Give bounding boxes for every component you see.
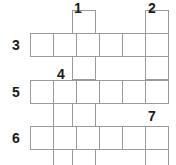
cell-r5-c2[interactable] [76,126,100,150]
clue-number-5: 5 [12,85,20,99]
cell-r5-c1[interactable] [53,126,77,150]
cell-r3-c0[interactable] [30,80,54,104]
cell-r1-c1[interactable] [53,33,77,57]
cell-r2-c2[interactable] [72,56,96,80]
cell-r1-c4[interactable] [122,33,146,57]
clue-number-3: 3 [12,38,20,52]
clue-number-1: 1 [74,1,82,15]
cell-r3-c2[interactable] [76,80,100,104]
cell-r3-c3[interactable] [99,80,123,104]
clue-number-7: 7 [148,109,156,123]
cell-r5-c0[interactable] [30,126,54,150]
cell-r1-c2[interactable] [76,33,100,57]
crossword-puzzle: 1234567 [0,0,176,165]
cell-r3-c4[interactable] [122,80,146,104]
cell-r5-c4[interactable] [122,126,146,150]
cell-r6-c5[interactable] [145,149,169,165]
cell-r2-c5[interactable] [145,56,169,80]
cell-r3-c5[interactable] [145,80,169,104]
cell-r4-c2[interactable] [72,103,96,127]
clue-number-4: 4 [57,67,65,81]
cell-r1-c0[interactable] [30,33,54,57]
cell-r5-c3[interactable] [99,126,123,150]
cell-r3-c1[interactable] [53,80,77,104]
cell-r1-c3[interactable] [99,33,123,57]
cell-r1-c5[interactable] [145,33,169,57]
clue-number-2: 2 [148,1,156,15]
cell-r5-c5[interactable] [145,126,169,150]
cell-r6-c2[interactable] [72,149,96,165]
clue-number-6: 6 [12,131,20,145]
